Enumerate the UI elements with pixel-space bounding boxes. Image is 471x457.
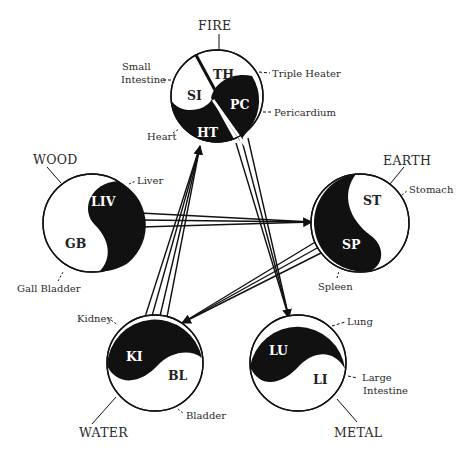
connection-earth-water [182, 241, 321, 323]
bladder-label: Bladder [186, 410, 226, 421]
connection-water-fire [145, 146, 200, 317]
large-intestine-label-1: Large [362, 372, 392, 383]
metal-abbr-lu: LU [269, 343, 288, 358]
liver-label: Liver [137, 175, 163, 186]
metal-circle [250, 315, 346, 411]
earth-circle [311, 174, 409, 272]
earth-abbr-sp: SP [342, 237, 361, 252]
small-intestine-label-1: Small [122, 61, 151, 72]
fire-label: FIRE [198, 18, 231, 33]
large-intestine-label-2: Intestine [363, 385, 408, 396]
metal-abbr-li: LI [313, 372, 328, 387]
fire-abbr-ht: HT [197, 125, 219, 140]
connection-wood-earth [140, 213, 312, 227]
five-element-diagram: TH SI PC HT FIRE Triple Heater Small Int… [0, 0, 471, 457]
water-label: WATER [79, 425, 128, 440]
fire-abbr-pc: PC [230, 97, 249, 112]
heart-label: Heart [147, 131, 176, 142]
pericardium-label: Pericardium [274, 107, 337, 118]
gall-bladder-label: Gall Bladder [17, 283, 81, 294]
connection-fire-metal [236, 138, 289, 318]
kidney-label: Kidney [77, 313, 112, 324]
fire-abbr-si: SI [187, 88, 202, 103]
wood-abbr-gb: GB [65, 236, 86, 251]
water-circle [107, 315, 203, 411]
earth-abbr-st: ST [363, 193, 382, 208]
metal-label: METAL [334, 425, 382, 440]
wood-circle [43, 174, 146, 272]
earth-label: EARTH [383, 153, 431, 168]
water-abbr-bl: BL [168, 368, 188, 383]
stomach-label: Stomach [409, 184, 454, 195]
small-intestine-label-2: Intestine [121, 74, 166, 85]
spleen-label: Spleen [318, 281, 353, 292]
lung-label: Lung [347, 316, 374, 327]
fire-abbr-th: TH [213, 67, 234, 82]
triple-heater-label: Triple Heater [272, 68, 341, 79]
water-abbr-ki: KI [126, 349, 143, 364]
wood-label: WOOD [33, 152, 78, 167]
wood-abbr-liv: LIV [91, 194, 116, 209]
